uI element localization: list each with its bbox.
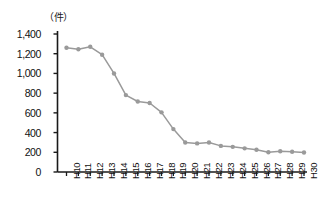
- line-chart: （件） 02004006008001,0001,2001,400 H10H11H…: [0, 0, 323, 207]
- data-point-marker: [100, 53, 104, 57]
- data-point-marker: [254, 148, 258, 152]
- data-series: [64, 45, 306, 155]
- data-point-marker: [147, 101, 151, 105]
- data-point-marker: [242, 146, 246, 150]
- data-point-marker: [278, 149, 282, 153]
- data-point-marker: [171, 127, 175, 131]
- data-point-marker: [64, 46, 68, 50]
- data-point-marker: [302, 150, 306, 154]
- data-point-marker: [76, 47, 80, 51]
- series-line: [67, 47, 305, 153]
- data-point-marker: [112, 71, 116, 75]
- data-point-marker: [124, 93, 128, 97]
- data-point-marker: [207, 140, 211, 144]
- plot-area: [0, 0, 323, 207]
- data-point-marker: [183, 140, 187, 144]
- data-point-marker: [266, 150, 270, 154]
- data-point-marker: [290, 150, 294, 154]
- data-point-marker: [136, 99, 140, 103]
- data-point-marker: [231, 145, 235, 149]
- data-point-marker: [88, 45, 92, 49]
- data-point-marker: [219, 144, 223, 148]
- data-point-marker: [195, 141, 199, 145]
- data-point-marker: [159, 110, 163, 114]
